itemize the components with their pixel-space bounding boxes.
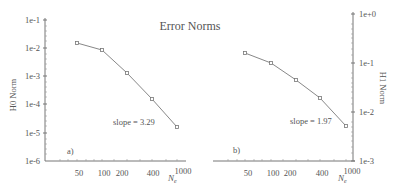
- panel-a-point: [126, 72, 129, 75]
- panel-a-xtick: 400: [147, 168, 160, 178]
- panel-b-xtick: 1000: [344, 166, 361, 176]
- panel-b-point: [345, 125, 348, 128]
- panel-a: 1e-1 1e-2 1e-3 1e-4 1e-5 1e-6 50 100 200…: [8, 15, 192, 184]
- panel-a-point: [176, 126, 179, 129]
- panel-b-point: [270, 62, 273, 65]
- panel-a-xtick: 1000: [175, 166, 192, 176]
- panel-a-label: a): [67, 146, 74, 156]
- panel-b-ytick: 1e-2: [359, 107, 374, 117]
- panel-a-ytick: 1e-3: [25, 71, 40, 81]
- panel-a-xtick: 50: [75, 168, 84, 178]
- panel-a-series-line: [77, 43, 177, 127]
- panel-b-ytick: 1e-3: [359, 156, 374, 166]
- panel-b-slope: slope = 1.97: [290, 116, 332, 126]
- panel-b-label: b): [233, 145, 240, 155]
- panel-a-ytick: 1e-4: [25, 99, 41, 109]
- panel-b: 1e+0 1e-1 1e-2 1e-3 50 100 200 400 1000 …: [213, 9, 388, 184]
- panel-a-slope: slope = 3.29: [113, 117, 155, 127]
- panel-a-point: [76, 42, 79, 45]
- panel-b-ylabel: H1 Norm: [378, 72, 388, 105]
- error-norms-figure: Error Norms 1e: [0, 0, 393, 194]
- panel-b-ytick: 1e-1: [359, 58, 374, 68]
- panel-b-point: [295, 79, 298, 82]
- panel-a-point: [151, 98, 154, 101]
- panel-b-ytick: 1e+0: [359, 9, 376, 19]
- panel-a-ylabel: H0 Norm: [8, 78, 18, 111]
- panel-a-ytick: 1e-6: [25, 156, 40, 166]
- panel-a-ytick: 1e-1: [25, 15, 40, 25]
- panel-b-xtick: 400: [316, 168, 329, 178]
- panel-a-xtick: 200: [116, 168, 129, 178]
- chart-title: Error Norms: [160, 19, 221, 33]
- panel-b-xtick: 50: [244, 168, 253, 178]
- panel-b-xtick: 200: [284, 168, 297, 178]
- panel-a-ytick: 1e-2: [25, 43, 40, 53]
- panel-a-ytick: 1e-5: [25, 128, 40, 138]
- panel-b-point: [244, 52, 247, 55]
- panel-a-xtick: 100: [98, 168, 111, 178]
- panel-b-xtick: 100: [267, 168, 280, 178]
- panel-b-point: [319, 97, 322, 100]
- panel-a-point: [101, 49, 104, 52]
